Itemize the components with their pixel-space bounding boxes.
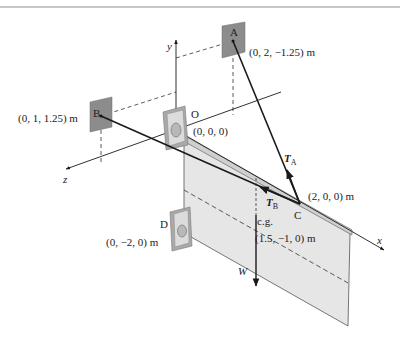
point-d-coords: (0, −2, 0) m	[106, 236, 159, 249]
point-d-label: D	[160, 218, 168, 230]
point-c-label: C	[294, 209, 301, 221]
point-c-coords: (2, 0, 0) m	[308, 190, 355, 203]
point-b-label: B	[93, 107, 100, 119]
point-a-label: A	[230, 26, 238, 38]
point-b-coords: (0, 1, 1.25) m	[18, 112, 78, 125]
hinge-o	[163, 106, 188, 150]
point-o-label: O	[191, 108, 199, 120]
tension-a-label: TA	[284, 152, 297, 167]
weight-label: W	[238, 265, 248, 277]
statics-diagram: y z x A (0, 2, −1.25) m B (0, 1, 1.25) m…	[0, 0, 400, 341]
x-axis-label: x	[376, 234, 382, 246]
point-a-coords: (0, 2, −1.25) m	[249, 46, 316, 59]
point-o-coords: (0, 0, 0)	[193, 125, 228, 138]
z-axis-label: z	[62, 173, 68, 185]
cg-label: c.g.	[257, 215, 273, 227]
cg-coords: (1.5, −1, 0) m	[255, 232, 316, 245]
hinge-d	[170, 207, 192, 251]
y-axis-label: y	[166, 40, 172, 52]
